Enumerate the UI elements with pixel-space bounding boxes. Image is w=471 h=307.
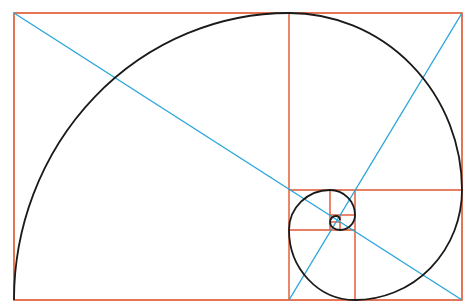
diagonal-lines <box>14 13 462 300</box>
golden-spiral-diagram <box>0 0 471 307</box>
diagonal-line <box>14 13 462 300</box>
diagonal-line <box>289 13 462 300</box>
diagram-canvas <box>0 0 471 307</box>
